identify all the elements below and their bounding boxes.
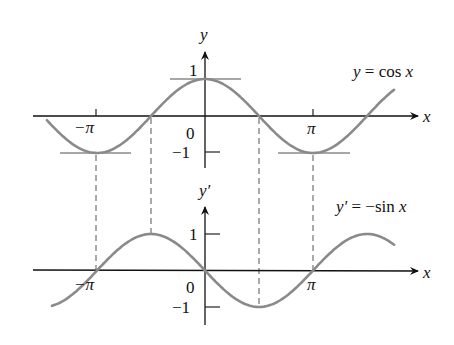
bottom-tick-label-neg-pi: −π — [74, 275, 94, 294]
top-x-axis-label: x — [422, 107, 431, 126]
bottom-x-axis-label: x — [422, 263, 431, 282]
bottom-tick-label-neg-one: −1 — [172, 298, 190, 317]
top-y-axis-label: y — [198, 25, 208, 44]
bottom-tick-label-pi: π — [307, 275, 316, 294]
bottom-y-axis-label: y′ — [197, 181, 211, 200]
bottom-tick-label-zero: 0 — [186, 278, 195, 297]
top-tick-label-zero: 0 — [186, 124, 195, 143]
top-tick-label-neg-pi: −π — [74, 118, 94, 137]
figure-canvas: y x 1 −1 0 −π π y = cos x y′ x 1 −1 0 −π… — [0, 0, 454, 345]
top-tick-label-pi: π — [307, 119, 316, 138]
top-tick-label-one: 1 — [189, 61, 198, 80]
top-equation: y = cos x — [351, 62, 414, 81]
top-plot: y x 1 −1 0 −π π y = cos x — [33, 25, 431, 168]
bottom-plot: y′ x 1 −1 0 −π π y′ = −sin x — [33, 181, 431, 325]
bottom-x-axis — [33, 270, 418, 271]
derivative-figure: y x 1 −1 0 −π π y = cos x y′ x 1 −1 0 −π… — [0, 0, 454, 345]
top-tick-label-neg-one: −1 — [172, 143, 190, 162]
bottom-equation: y′ = −sin x — [334, 197, 407, 216]
bottom-tick-label-one: 1 — [189, 225, 198, 244]
